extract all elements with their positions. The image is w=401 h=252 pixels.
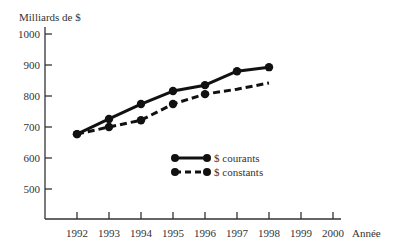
legend: $ courants $ constants: [171, 152, 263, 178]
x-tick-label: 1993: [98, 227, 121, 239]
series-layer: [73, 63, 273, 138]
x-axis: 199219931994199519961997199819992000: [45, 212, 345, 239]
legend-marker-icon: [203, 168, 211, 176]
legend-marker-icon: [171, 168, 179, 176]
data-point-marker: [265, 63, 273, 71]
data-point-marker: [201, 90, 209, 98]
x-tick-label: 1992: [66, 227, 88, 239]
x-tick-label: 2000: [322, 227, 345, 239]
x-tick-label: 1996: [194, 227, 217, 239]
data-point-marker: [105, 123, 113, 131]
y-tick-label: 800: [24, 90, 41, 102]
y-axis: 5006007008009001000: [18, 27, 52, 219]
x-tick-label: 1994: [130, 227, 153, 239]
x-tick-label: 1998: [258, 227, 281, 239]
y-axis-label: Milliards de $: [19, 11, 81, 23]
data-point-marker: [169, 100, 177, 108]
y-tick-label: 600: [24, 152, 41, 164]
data-point-marker: [137, 100, 145, 108]
data-point-marker: [105, 115, 113, 123]
x-tick-label: 1997: [226, 227, 249, 239]
data-point-marker: [233, 67, 241, 75]
legend-label-courants: $ courants: [214, 152, 260, 164]
data-point-marker: [137, 116, 145, 124]
x-tick-label: 1995: [162, 227, 185, 239]
y-tick-label: 900: [24, 59, 41, 71]
y-tick-label: 500: [24, 183, 41, 195]
data-point-marker: [169, 87, 177, 95]
data-point-marker: [73, 130, 81, 138]
y-tick-label: 1000: [18, 28, 41, 40]
x-tick-label: 1999: [290, 227, 313, 239]
legend-label-constants: $ constants: [214, 166, 263, 178]
legend-marker-icon: [203, 154, 211, 162]
x-axis-label: Année: [352, 227, 381, 239]
y-tick-label: 700: [24, 121, 41, 133]
line-chart: Milliards de $ Année 5006007008009001000…: [0, 0, 401, 252]
legend-marker-icon: [171, 154, 179, 162]
data-point-marker: [201, 81, 209, 89]
